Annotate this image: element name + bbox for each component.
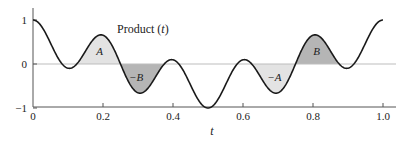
x-tick-label: 1.0	[376, 110, 390, 122]
region-label: A	[95, 45, 103, 57]
y-tick-label: 0	[22, 58, 28, 70]
y-tick-label: 1	[22, 14, 28, 26]
x-tick-label: 0.6	[236, 110, 250, 122]
chart-canvas: 00.20.40.60.81.0 −101 A−B−AB Product (t)…	[0, 0, 409, 144]
x-tick-label: 0.2	[96, 110, 110, 122]
y-ticks: −101	[15, 14, 37, 114]
region-label: −B	[129, 71, 143, 83]
product-chart: 00.20.40.60.81.0 −101 A−B−AB Product (t)…	[0, 0, 409, 144]
series-label: Product (t)	[117, 22, 169, 36]
region-label: −A	[267, 71, 281, 83]
x-ticks: 00.20.40.60.81.0	[30, 103, 390, 122]
y-tick-label: −1	[15, 102, 27, 114]
x-tick-label: 0.4	[166, 110, 180, 122]
x-tick-label: 0	[30, 110, 36, 122]
x-tick-label: 0.8	[306, 110, 320, 122]
region-label: B	[313, 45, 320, 57]
x-axis-label: t	[210, 124, 214, 138]
